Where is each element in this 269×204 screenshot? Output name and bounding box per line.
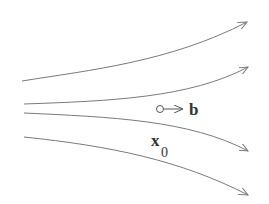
flow-curve-2 [24, 67, 248, 104]
vector-b-label: b [189, 100, 198, 119]
flow-curve-1 [22, 22, 247, 81]
flow-curves [22, 22, 248, 195]
vector-b: b [157, 100, 199, 119]
point-x0-label: x [151, 131, 160, 150]
point-x0-subscript: 0 [161, 145, 168, 160]
vector-origin-circle-icon [157, 106, 164, 113]
flow-curve-4 [24, 137, 248, 195]
flow-curve-3 [24, 113, 248, 151]
flow-diagram: b x 0 [0, 0, 269, 204]
point-x0: x 0 [151, 131, 168, 160]
